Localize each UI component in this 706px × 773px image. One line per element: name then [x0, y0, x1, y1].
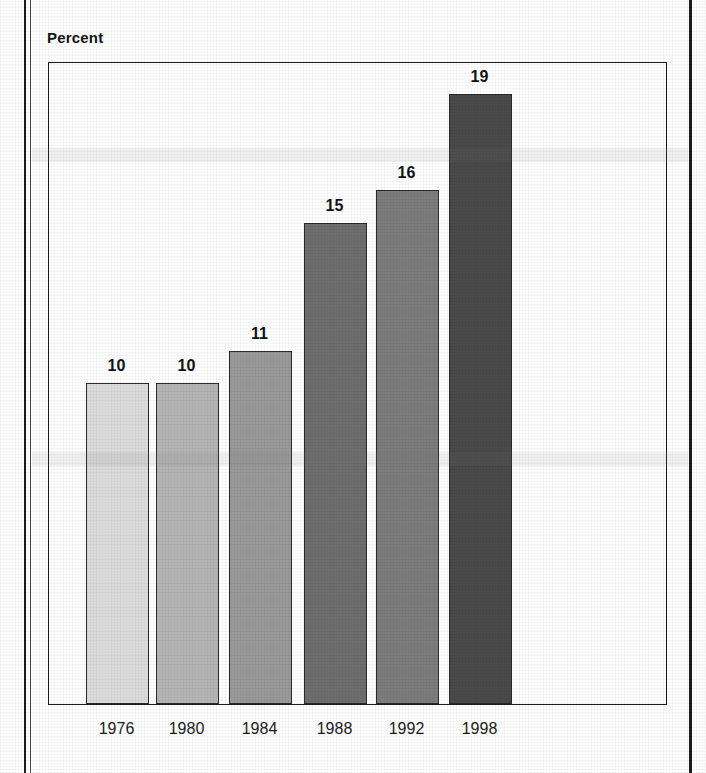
bar-value-label-1984: 11 [228, 325, 291, 343]
y-axis-title: Percent [47, 29, 103, 46]
x-axis-tick-label-1988: 1988 [303, 720, 366, 738]
x-axis-tick-label-1998: 1998 [448, 720, 511, 738]
bar-value-label-1976: 10 [85, 357, 148, 375]
page-rule-left-outer [24, 0, 26, 773]
bar-1976 [86, 383, 149, 704]
x-axis-tick-label-1980: 1980 [155, 720, 218, 738]
x-axis-tick-label-1992: 1992 [375, 720, 438, 738]
bar-1992 [376, 190, 439, 704]
plot-area [49, 63, 666, 704]
page-rule-right [689, 0, 692, 773]
bar-value-label-1988: 15 [303, 197, 366, 215]
bar-chart-figure: Percent 101011151619 1976198019841988199… [0, 0, 706, 773]
x-axis-tick-label-1976: 1976 [85, 720, 148, 738]
bar-value-label-1998: 19 [448, 68, 511, 86]
bar-1988 [304, 223, 367, 705]
bar-1980 [156, 383, 219, 704]
page-rule-left-inner [30, 0, 31, 773]
bar-value-label-1980: 10 [155, 357, 218, 375]
x-axis-tick-label-1984: 1984 [228, 720, 291, 738]
plot-frame [48, 62, 667, 705]
bar-1998 [449, 94, 512, 704]
bar-1984 [229, 351, 292, 704]
bar-value-label-1992: 16 [375, 164, 438, 182]
